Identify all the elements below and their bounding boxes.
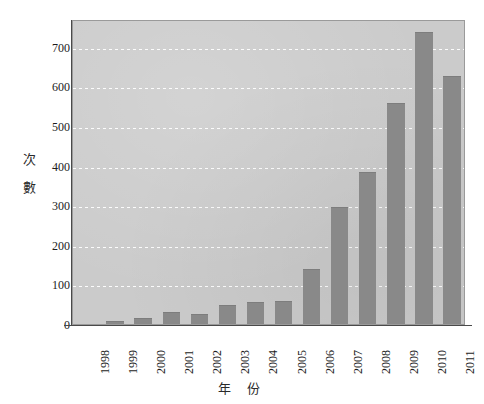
x-axis-tick-label: 2007	[351, 330, 366, 374]
bar	[443, 76, 460, 324]
x-axis-tick-label: 1998	[98, 330, 113, 374]
x-axis-tick-label: 2010	[435, 330, 450, 374]
y-axis-tick-label: 600	[40, 80, 70, 95]
x-axis-line	[64, 325, 472, 326]
bar	[359, 172, 376, 324]
bar	[106, 321, 123, 324]
bar	[163, 312, 180, 324]
x-axis-tick-label: 2002	[210, 330, 225, 374]
y-axis-tick-label: 200	[40, 238, 70, 253]
bar	[219, 305, 236, 324]
bar	[275, 301, 292, 324]
x-axis-tick-label: 2004	[266, 330, 281, 374]
bar	[247, 302, 264, 324]
x-axis-tick-label: 2011	[463, 330, 478, 374]
x-axis-tick-label: 2001	[182, 330, 197, 374]
y-axis-title-char-1: 次	[18, 146, 40, 174]
y-axis-tick-label: 500	[40, 119, 70, 134]
x-axis-tick-label: 2005	[295, 330, 310, 374]
bar	[134, 318, 151, 324]
y-axis-tick-labels: 0100200300400500600700	[40, 20, 70, 325]
x-axis-tick-label: 2009	[407, 330, 422, 374]
bar	[191, 314, 208, 324]
y-axis-line	[71, 20, 72, 326]
plot-area	[72, 20, 465, 325]
x-axis-title: 年 份	[0, 378, 484, 397]
bar-chart: 次 數 0100200300400500600700 1998199920002…	[0, 0, 484, 404]
y-axis-title-char-2: 數	[18, 174, 40, 202]
y-axis-title: 次 數	[18, 146, 40, 202]
y-axis-tick-label: 300	[40, 199, 70, 214]
x-axis-tick-label: 2008	[379, 330, 394, 374]
bar	[387, 103, 404, 324]
bar	[331, 207, 348, 324]
y-axis-tick-label: 400	[40, 159, 70, 174]
bars-layer	[73, 21, 464, 324]
bar	[415, 32, 432, 324]
x-axis-tick-label: 2006	[323, 330, 338, 374]
x-axis-tick-labels: 1998199920002001200220032004200520062007…	[72, 330, 465, 374]
x-axis-tick-label: 2000	[154, 330, 169, 374]
y-axis-tick-label: 100	[40, 278, 70, 293]
x-axis-tick-label: 2003	[238, 330, 253, 374]
y-axis-tick-label: 700	[40, 40, 70, 55]
bar	[303, 269, 320, 324]
x-axis-tick-label: 1999	[126, 330, 141, 374]
